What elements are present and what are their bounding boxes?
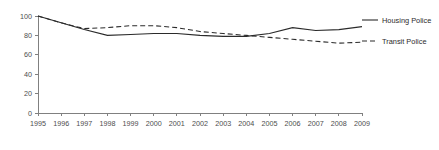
legend-label-transit-police: Transit Police [382,37,427,46]
line-chart: 020406080100 199519961997199819992000200… [0,0,439,150]
x-tick-label: 1995 [30,119,46,128]
x-tick-label: 2001 [169,119,185,128]
x-tick-label: 2002 [192,119,208,128]
x-tick-label: 1996 [53,119,69,128]
series-lines [38,16,362,43]
x-tick-label: 2009 [354,119,370,128]
legend-item-transit-police: Transit Police [362,37,427,46]
x-tick-label: 1999 [123,119,139,128]
y-axis: 020406080100 [20,12,38,118]
y-tick-label: 80 [24,31,32,40]
legend-item-housing-police: Housing Police [362,16,431,25]
y-tick-label: 100 [20,12,32,21]
y-tick-label: 40 [24,70,32,79]
x-axis: 1995199619971998199920002001200220032004… [30,113,370,128]
x-tick-label: 2006 [285,119,301,128]
y-tick-label: 0 [28,109,32,118]
series-line-housing-police [38,16,362,36]
legend-label-housing-police: Housing Police [382,16,431,25]
x-tick-label: 2007 [308,119,324,128]
x-tick-label: 2008 [331,119,347,128]
x-tick-label: 2000 [146,119,162,128]
x-tick-labels: 1995199619971998199920002001200220032004… [30,119,370,128]
chart-canvas: 020406080100 199519961997199819992000200… [0,0,439,150]
x-tick-label: 1998 [99,119,115,128]
series-line-transit-police [38,16,362,43]
legend: Housing Police Transit Police [362,16,431,46]
x-tick-label: 1997 [76,119,92,128]
x-tick-label: 2004 [238,119,254,128]
y-tick-label: 60 [24,50,32,59]
x-tick-label: 2003 [215,119,231,128]
y-tick-labels: 020406080100 [20,12,32,118]
y-tick-label: 20 [24,89,32,98]
x-tick-label: 2005 [261,119,277,128]
